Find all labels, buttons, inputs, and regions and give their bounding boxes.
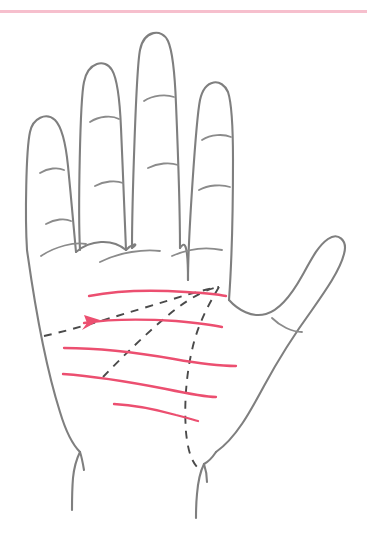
middle-crease-lower: [148, 163, 178, 168]
wrist-notch-left: [72, 452, 80, 510]
ring-finger-outline: [79, 63, 126, 250]
heart-line: [44, 287, 219, 336]
major-lines-group: [44, 287, 219, 468]
minor-lines-group: [63, 291, 236, 421]
ring-crease-lower: [95, 181, 123, 186]
minor-line-4: [63, 374, 216, 397]
middle-crease-upper: [144, 95, 174, 101]
wrist-notch-right: [196, 464, 204, 518]
minor-line-1: [89, 291, 226, 296]
palm-top-edge-2: [126, 244, 135, 250]
wrist-tick-left: [80, 452, 84, 470]
wrist-tick-right: [204, 464, 207, 482]
palm-right-edge: [204, 452, 216, 464]
index-crease-lower: [199, 185, 230, 190]
middle-finger-outline: [132, 33, 180, 248]
life-line: [185, 287, 219, 468]
index-crease-upper: [202, 135, 231, 140]
palm-illustration: [0, 0, 367, 547]
base-crease-ring-middle: [100, 250, 160, 262]
base-crease-middle-index: [172, 248, 222, 256]
index-finger-outline: [188, 82, 233, 300]
minor-line-3: [64, 348, 236, 366]
minor-line-2: [84, 320, 222, 327]
pinky-finger-outline: [26, 116, 76, 252]
pinky-crease-upper: [40, 168, 64, 173]
hand-outline-group: [26, 33, 345, 518]
palm-left-edge: [27, 250, 80, 452]
ring-crease-upper: [90, 117, 119, 122]
thumb-outline: [216, 236, 345, 452]
pinky-crease-lower: [46, 219, 71, 224]
palm-diagram-page: Left palm with major and minor lines: [0, 0, 367, 547]
palm-svg: [0, 0, 367, 547]
